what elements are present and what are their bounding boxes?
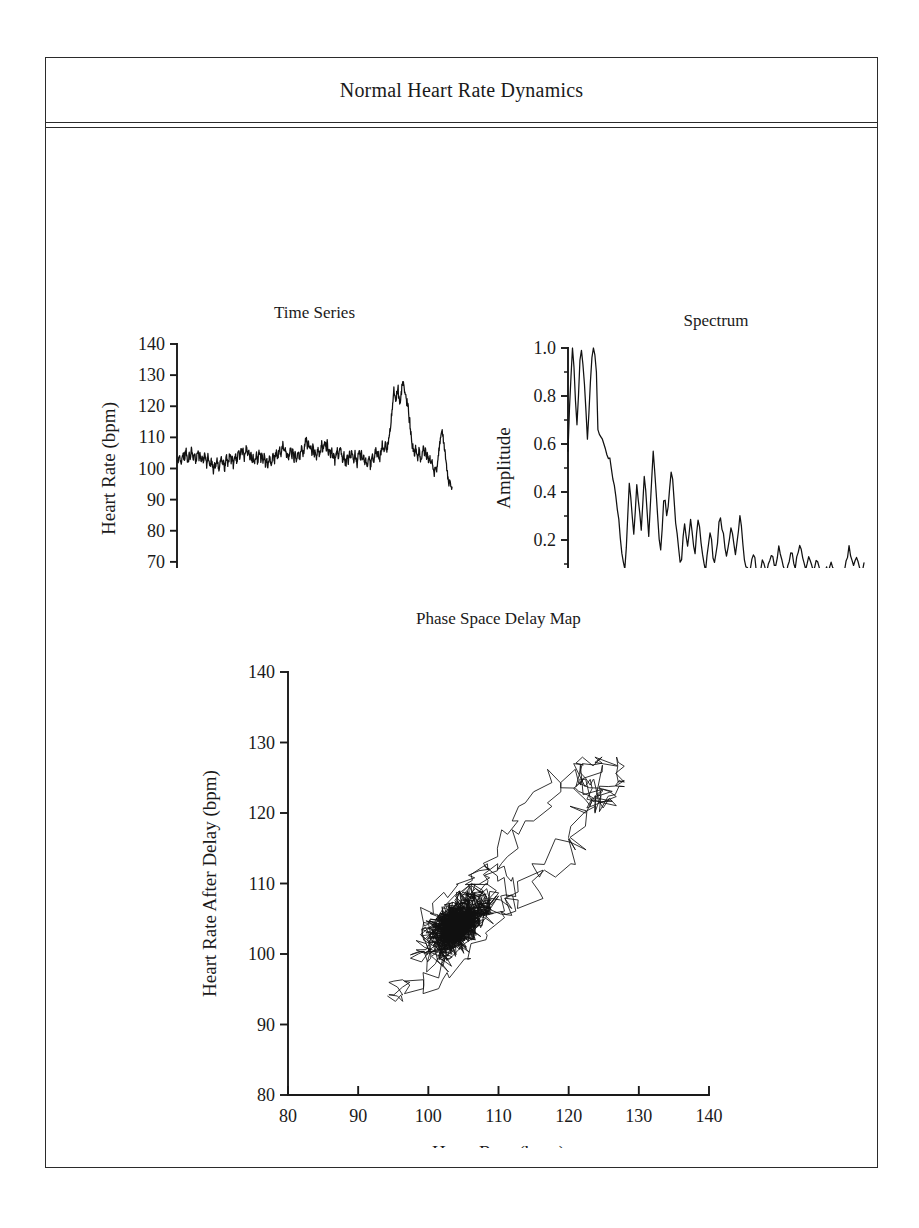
phase-space-x-axis-label: Heart Rate (bpm): [432, 1142, 565, 1148]
phase-space-y-tick-label: 140: [248, 662, 275, 682]
phase-space-y-tick-label: 100: [248, 944, 275, 964]
time-series-panel-title: Time Series: [274, 303, 355, 322]
phase-space-x-tick-label: 90: [349, 1106, 367, 1126]
spectrum-y-tick-label: 0.4: [534, 482, 557, 502]
spectrum-y-tick-label: 0.8: [534, 386, 557, 406]
phase-space-chart: Phase Space Delay Map8090100110120130140…: [199, 609, 723, 1148]
phase-space-x-tick-label: 100: [415, 1106, 442, 1126]
time-series-y-tick-label: 90: [147, 490, 165, 510]
figure-root: Normal Heart Rate Dynamics Time Series60…: [0, 0, 919, 1228]
phase-space-x-tick-label: 140: [696, 1106, 723, 1126]
phase-space-trajectory: [388, 757, 625, 1001]
figure-header-band: Normal Heart Rate Dynamics: [46, 58, 877, 123]
time-series-y-axis-label: Heart Rate (bpm): [98, 402, 120, 535]
figure-title: Normal Heart Rate Dynamics: [340, 79, 583, 102]
time-series-y-tick-label: 120: [138, 396, 165, 416]
phase-space-y-tick-label: 80: [257, 1085, 275, 1105]
phase-space-y-axis-label: Heart Rate After Delay (bpm): [199, 770, 221, 997]
spectrum-y-tick-label: 0.6: [534, 434, 557, 454]
phase-space-y-tick-label: 90: [257, 1015, 275, 1035]
phase-space-y-tick-label: 120: [248, 803, 275, 823]
time-series-y-tick-label: 100: [138, 459, 165, 479]
panel-time-series: Time Series60708090100110120130140030060…: [46, 148, 466, 568]
phase-space-y-tick-label: 130: [248, 733, 275, 753]
time-series-y-tick-label: 130: [138, 365, 165, 385]
panel-spectrum: Spectrum0.00.20.40.60.81.00.000.020.040.…: [444, 148, 879, 568]
time-series-y-tick-label: 110: [139, 427, 165, 447]
spectrum-y-tick-label: 1.0: [534, 338, 557, 358]
phase-space-panel-title: Phase Space Delay Map: [416, 609, 581, 628]
panel-phase-space: Phase Space Delay Map8090100110120130140…: [106, 528, 806, 1148]
figure-outer-frame: Normal Heart Rate Dynamics Time Series60…: [45, 57, 878, 1168]
phase-space-x-tick-label: 130: [625, 1106, 652, 1126]
time-series-y-tick-label: 140: [138, 334, 165, 354]
phase-space-axes: [288, 672, 709, 1095]
spectrum-y-axis-label: Amplitude: [493, 427, 514, 508]
phase-space-y-tick-label: 110: [249, 874, 275, 894]
phase-space-x-tick-label: 120: [555, 1106, 582, 1126]
time-series-data-line: [177, 382, 452, 490]
phase-space-x-tick-label: 80: [279, 1106, 297, 1126]
phase-space-x-tick-label: 110: [485, 1106, 511, 1126]
spectrum-panel-title: Spectrum: [683, 311, 748, 330]
header-divider-rule: [46, 127, 877, 128]
